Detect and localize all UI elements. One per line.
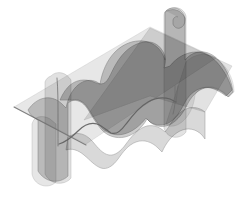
surface-plot-svg	[0, 0, 244, 198]
figure-canvas: Wavy surface intersected by two cutting …	[0, 0, 244, 198]
